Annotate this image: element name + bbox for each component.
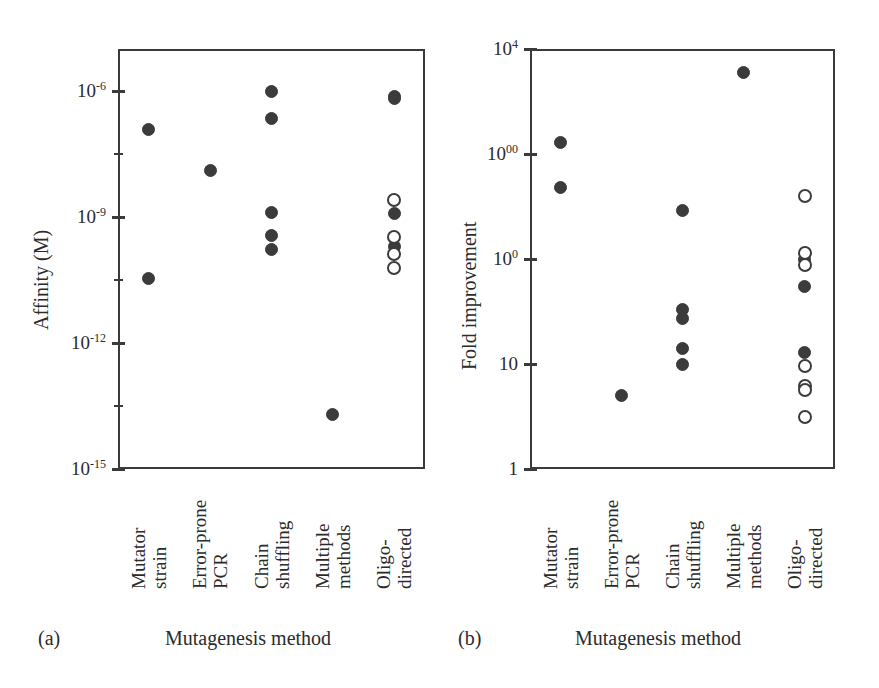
data-point-filled — [615, 389, 628, 402]
x-axis-category-line: Oligo- — [785, 528, 806, 589]
data-point-filled — [554, 136, 567, 149]
x-axis-category-line: Mutator — [541, 528, 562, 589]
x-axis-category-label: Multiplemethods — [724, 524, 765, 589]
data-point-open — [798, 383, 812, 397]
data-point-filled — [265, 243, 278, 256]
x-axis-category-line: shuffling — [683, 521, 704, 589]
x-axis-category-line: Chain — [663, 521, 684, 589]
x-axis-title-a: Mutagenesis method — [165, 627, 331, 650]
x-axis-category-label: Oligo-directed — [785, 528, 826, 589]
y-axis-tick-minor — [114, 468, 123, 470]
x-axis-category-line: Multiple — [313, 524, 334, 589]
y-axis-tick-minor — [114, 279, 123, 281]
y-axis-tick-minor — [114, 216, 123, 218]
y-axis-tick-label: 1 — [428, 459, 518, 478]
data-point-open — [798, 189, 812, 203]
x-axis-category-line: Oligo- — [374, 528, 395, 589]
data-point-open — [798, 258, 812, 272]
x-axis-category-line: strain — [149, 528, 170, 589]
panel-a: Affinity (M) (a) Mutagenesis method 10-6… — [0, 0, 439, 688]
plot-area-b — [530, 49, 835, 469]
x-axis-category-label: Mutatorstrain — [541, 528, 582, 589]
x-axis-category-line: methods — [333, 524, 354, 589]
x-axis-category-label: Error-pronePCR — [602, 500, 643, 589]
y-axis-tick-label: 1000 — [428, 144, 518, 163]
data-point-filled — [142, 272, 155, 285]
x-axis-category-line: PCR — [211, 500, 232, 589]
data-point-filled — [388, 207, 401, 220]
panel-letter-b: (b) — [458, 627, 481, 650]
data-point-filled — [676, 204, 689, 217]
panel-letter-a: (a) — [38, 627, 60, 650]
y-axis-tick-major — [524, 468, 537, 471]
data-point-filled — [554, 181, 567, 194]
y-axis-tick-label: 10-15 — [16, 459, 106, 478]
y-axis-tick-minor — [114, 405, 123, 407]
data-point-filled — [265, 85, 278, 98]
y-axis-tick-label: 10-9 — [16, 207, 106, 226]
x-axis-category-label: Multiplemethods — [313, 524, 354, 589]
y-axis-tick-major — [524, 258, 537, 261]
y-axis-tick-major — [524, 48, 537, 51]
x-axis-category-line: directed — [395, 528, 416, 589]
data-point-open — [387, 193, 401, 207]
x-axis-category-line: Multiple — [724, 524, 745, 589]
data-point-filled — [204, 164, 217, 177]
x-axis-category-label: Oligo-directed — [374, 528, 415, 589]
figure-container: Affinity (M) (a) Mutagenesis method 10-6… — [0, 0, 879, 688]
y-axis-tick-label: 10-12 — [16, 333, 106, 352]
y-axis-tick-minor — [114, 342, 123, 344]
y-axis-tick-label: 10-6 — [16, 81, 106, 100]
y-axis-tick-major — [524, 153, 537, 156]
x-axis-category-label: Error-pronePCR — [190, 500, 231, 589]
y-axis-tick-label: 100 — [428, 249, 518, 268]
x-axis-category-label: Chainshuffling — [663, 521, 704, 589]
y-axis-tick-label: 104 — [428, 39, 518, 58]
y-axis-tick-minor — [114, 153, 123, 155]
panel-b: Fold improvement (b) Mutagenesis method … — [440, 0, 879, 688]
x-axis-category-line: strain — [561, 528, 582, 589]
y-axis-title-a: Affinity (M) — [30, 230, 53, 330]
x-axis-category-label: Mutatorstrain — [129, 528, 170, 589]
x-axis-category-line: Chain — [252, 521, 273, 589]
x-axis-category-line: Error-prone — [602, 500, 623, 589]
y-axis-tick-label: 10 — [428, 354, 518, 373]
x-axis-category-line: shuffling — [272, 521, 293, 589]
data-point-filled — [737, 66, 750, 79]
data-point-open — [798, 359, 812, 373]
data-point-filled — [798, 280, 811, 293]
data-point-open — [387, 230, 401, 244]
x-axis-category-line: Mutator — [129, 528, 150, 589]
x-axis-title-b: Mutagenesis method — [575, 627, 741, 650]
data-point-open — [798, 410, 812, 424]
x-axis-category-line: Error-prone — [190, 500, 211, 589]
x-axis-category-label: Chainshuffling — [252, 521, 293, 589]
y-axis-tick-major — [112, 90, 125, 93]
x-axis-category-line: directed — [805, 528, 826, 589]
y-axis-tick-major — [524, 363, 537, 366]
x-axis-category-line: PCR — [622, 500, 643, 589]
data-point-filled — [265, 206, 278, 219]
x-axis-category-line: methods — [744, 524, 765, 589]
data-point-filled — [798, 346, 811, 359]
y-axis-title-b: Fold improvement — [458, 222, 481, 370]
